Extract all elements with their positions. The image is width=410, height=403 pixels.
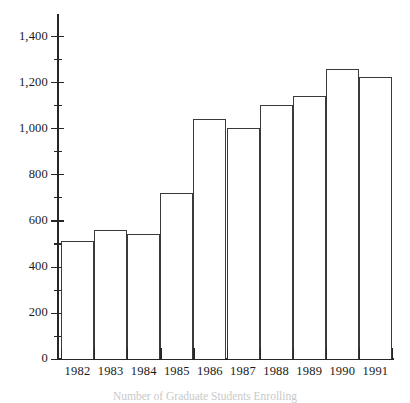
x-tick-10 [392, 348, 393, 359]
y-tick-label-200: 200 [0, 306, 48, 319]
bar-1983 [94, 230, 127, 360]
bar-1991 [359, 77, 392, 359]
bar-1989 [293, 96, 326, 360]
y-axis-line [57, 14, 59, 360]
x-tick-6 [260, 348, 261, 359]
y-tick-major-600 [51, 220, 64, 221]
bar-1985 [160, 193, 193, 359]
x-tick-1 [94, 348, 95, 359]
x-tick-2 [127, 348, 128, 359]
bar-1982 [61, 241, 94, 359]
y-tick-label-600: 600 [0, 214, 48, 227]
y-tick-minor-1300 [54, 59, 62, 60]
x-tick-9 [359, 348, 360, 359]
x-tick-7 [293, 348, 294, 359]
y-tick-major-1000 [51, 128, 64, 129]
bar-1988 [260, 105, 293, 359]
y-tick-label-800: 800 [0, 168, 48, 181]
bar-1990 [326, 69, 359, 359]
bar-1984 [127, 234, 160, 359]
y-tick-label-0: 0 [0, 352, 48, 365]
x-tick-5 [227, 348, 228, 359]
y-tick-major-1400 [51, 36, 64, 37]
x-label-1991: 1991 [355, 365, 395, 378]
chart-caption: Number of Graduate Students Enrolling [0, 390, 410, 403]
y-tick-major-1200 [51, 82, 64, 83]
x-tick-8 [326, 348, 327, 359]
y-tick-minor-700 [54, 197, 62, 198]
x-tick-4 [193, 348, 194, 359]
y-tick-minor-1100 [54, 105, 62, 106]
y-tick-label-400: 400 [0, 260, 48, 273]
bar-1987 [227, 128, 260, 359]
x-tick-0 [61, 348, 62, 359]
bar-1986 [193, 119, 226, 359]
x-tick-3 [160, 348, 161, 359]
y-tick-minor-900 [54, 151, 62, 152]
y-tick-label-1400: 1,400 [0, 30, 48, 43]
y-tick-label-1200: 1,200 [0, 76, 48, 89]
y-tick-major-800 [51, 174, 64, 175]
y-tick-label-1000: 1,000 [0, 122, 48, 135]
